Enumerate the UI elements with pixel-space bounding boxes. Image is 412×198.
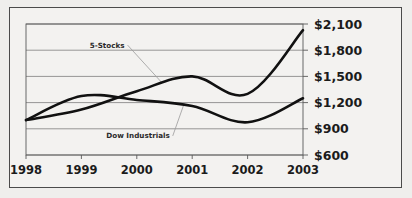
chart-figure: $600$900$1,200$1,500$1,800$2,100 1998199… <box>0 0 412 198</box>
x-axis-tick-label: 1999 <box>65 163 97 177</box>
series-label-5-stocks: 5-Stocks <box>90 41 125 50</box>
y-axis-tick-label: $600 <box>314 148 349 163</box>
x-axis-tick-label: 2003 <box>287 163 319 177</box>
y-axis-tick-label: $1,500 <box>314 69 363 84</box>
series-line <box>26 95 303 122</box>
series-annotations: 5-StocksDow Industrials <box>90 41 170 141</box>
series-label-dow-industrials: Dow Industrials <box>106 131 169 140</box>
annotation-leader-line <box>128 45 162 82</box>
line-chart: $600$900$1,200$1,500$1,800$2,100 1998199… <box>0 0 412 198</box>
y-axis-tick-label: $1,800 <box>314 43 363 58</box>
y-axis-tick-label: $2,100 <box>314 17 363 32</box>
x-axis-labels: 199819992000200120022003 <box>10 163 319 177</box>
y-axis-tick-label: $900 <box>314 121 349 136</box>
y-axis-tick-label: $1,200 <box>314 95 363 110</box>
x-axis-tick-label: 2000 <box>121 163 153 177</box>
x-axis-tick-label: 1998 <box>10 163 42 177</box>
y-axis-labels: $600$900$1,200$1,500$1,800$2,100 <box>314 17 363 163</box>
x-axis-tick-label: 2001 <box>176 163 208 177</box>
x-axis-tick-label: 2002 <box>232 163 264 177</box>
series-line <box>26 30 303 120</box>
annotation-leader-line <box>173 104 184 136</box>
